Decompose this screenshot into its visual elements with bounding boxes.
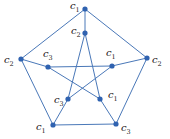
vertex-label-subscript: 3 — [127, 128, 131, 136]
vertex-label-o0: c1 — [70, 0, 80, 14]
vertex-o4 — [18, 56, 23, 61]
vertex-label-subscript: 3 — [49, 54, 53, 62]
vertex-i0 — [82, 30, 87, 35]
vertex-label-subscript: 1 — [42, 127, 46, 135]
graph-edges — [21, 9, 147, 125]
vertex-label-subscript: 2 — [77, 31, 81, 39]
edge-o2-o3 — [53, 124, 116, 125]
vertex-i3 — [65, 96, 70, 101]
edge-o0-o1 — [85, 9, 147, 58]
vertex-label-subscript: 2 — [10, 60, 14, 68]
edge-o1-o2 — [116, 58, 147, 124]
vertex-label-o1: c2 — [152, 54, 162, 68]
vertex-label-subscript: 1 — [76, 6, 80, 14]
vertex-label-subscript: 1 — [112, 53, 116, 61]
vertex-label-subscript: 3 — [60, 100, 64, 108]
edge-o4-i4 — [21, 59, 48, 67]
vertex-label-o4: c2 — [4, 54, 14, 68]
vertex-label-i4: c3 — [43, 48, 53, 62]
vertex-label-o3: c1 — [36, 121, 46, 135]
vertex-o2 — [113, 121, 118, 126]
petersen-graph: c1c2c3c1c2c2c1c1c3c3 — [0, 0, 170, 139]
vertex-label-subscript: 1 — [114, 95, 118, 103]
vertex-i4 — [45, 64, 50, 69]
edge-i1-i3 — [68, 66, 112, 99]
vertex-o1 — [144, 55, 149, 60]
graph-vertices — [18, 6, 149, 127]
vertex-i1 — [109, 63, 114, 68]
vertex-label-i2: c1 — [108, 89, 118, 103]
edge-o1-i1 — [112, 58, 147, 66]
vertex-label-i0: c2 — [71, 25, 81, 39]
vertex-label-i3: c3 — [54, 94, 64, 108]
vertex-o3 — [50, 122, 55, 127]
vertex-i2 — [97, 96, 102, 101]
vertex-labels: c1c2c3c1c2c2c1c1c3c3 — [4, 0, 162, 136]
edge-i4-i1 — [48, 66, 112, 67]
vertex-label-o2: c3 — [121, 122, 131, 136]
vertex-label-i1: c1 — [106, 47, 116, 61]
vertex-label-subscript: 2 — [158, 60, 162, 68]
edge-o2-i2 — [100, 99, 116, 124]
vertex-o0 — [82, 6, 87, 11]
